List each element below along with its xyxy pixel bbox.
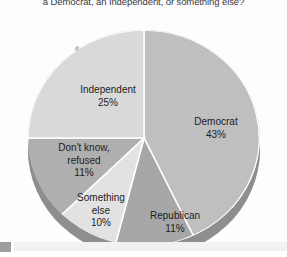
chart-page: a Democrat, an Independent, or something… bbox=[0, 0, 287, 257]
pie-chart: Independent 25% Democrat 43% Don't know,… bbox=[0, 12, 287, 242]
pie-label-something-pct: 10% bbox=[62, 217, 140, 230]
chart-question-text: a Democrat, an Independent, or something… bbox=[0, 0, 287, 8]
pie-label-dont-know-line1: Don't know, bbox=[58, 142, 109, 153]
pie-label-democrat-name: Democrat bbox=[194, 116, 237, 127]
pie-label-dont-know-pct: 11% bbox=[38, 167, 130, 180]
bottom-bar bbox=[0, 242, 287, 257]
pie-label-independent-pct: 25% bbox=[56, 97, 160, 110]
pie-label-republican: Republican 11% bbox=[134, 210, 216, 235]
pie-label-something-line2: else bbox=[62, 205, 140, 218]
bottom-bar-rule bbox=[14, 242, 287, 251]
pie-label-independent: Independent 25% bbox=[56, 84, 160, 109]
pie-label-democrat: Democrat 43% bbox=[168, 116, 264, 141]
bottom-bar-marker bbox=[0, 242, 11, 252]
pie-label-dont-know-refused: Don't know, refused 11% bbox=[38, 142, 130, 180]
pie-label-something-else: Something else 10% bbox=[62, 192, 140, 230]
pie-label-democrat-pct: 43% bbox=[168, 129, 264, 142]
pie-label-dont-know-line2: refused bbox=[38, 155, 130, 168]
pie-label-republican-name: Republican bbox=[150, 210, 200, 221]
pie-label-something-line1: Something bbox=[77, 192, 125, 203]
pie-label-independent-name: Independent bbox=[80, 84, 136, 95]
pie-label-republican-pct: 11% bbox=[134, 223, 216, 236]
scan-speck-small-icon bbox=[196, 82, 198, 84]
